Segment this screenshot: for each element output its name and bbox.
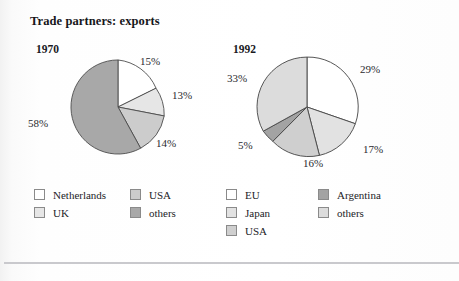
legend-swatch-others: [318, 207, 329, 218]
legend-label-usa: USA: [149, 189, 171, 201]
pie-value-label-others: 58%: [28, 117, 48, 129]
trade-partners-figure: Trade partners: exports 1970 15% 13%: [0, 0, 459, 281]
legend-item-others: others: [318, 204, 381, 221]
chart-title-1970: 1970: [36, 43, 59, 55]
pie-value-label-uk: 13%: [172, 89, 192, 101]
chart-panel-1992: 1992 29% 17% 16% 5% 33%: [215, 0, 459, 281]
legend-column-left: EU Japan USA: [226, 186, 270, 240]
legend-swatch-netherlands: [34, 189, 45, 200]
pie-value-label-usa: 14%: [156, 137, 176, 149]
legend-item-usa: USA: [226, 222, 270, 239]
legend-column-left: Netherlands UK: [34, 186, 106, 222]
legend-swatch-others: [130, 207, 141, 218]
legend-label-argentina: Argentina: [337, 189, 381, 201]
legend-item-usa: USA: [130, 186, 176, 203]
legend-label-others: others: [149, 207, 176, 219]
legend-item-eu: EU: [226, 186, 270, 203]
legend-swatch-argentina: [318, 189, 329, 200]
pie-value-label-eu: 29%: [360, 63, 380, 75]
chart-panel-1970: 1970 15% 13% 14% 58%: [0, 0, 220, 281]
pie-value-label-others: 33%: [227, 72, 247, 84]
legend-item-netherlands: Netherlands: [34, 186, 106, 203]
figure-page: Trade partners: exports 1970 15% 13%: [0, 0, 459, 281]
pie-svg-1992: [255, 55, 359, 159]
pie-chart-1970: [69, 58, 167, 156]
legend-swatch-usa: [130, 189, 141, 200]
legend-swatch-japan: [226, 207, 237, 218]
pie-value-label-japan: 17%: [363, 143, 383, 155]
chart-title-1992: 1992: [233, 43, 256, 55]
pie-value-label-usa: 16%: [303, 157, 323, 169]
legend-label-netherlands: Netherlands: [53, 189, 106, 201]
horizontal-rule: [4, 262, 459, 264]
legend-swatch-usa: [226, 225, 237, 236]
legend-item-uk: UK: [34, 204, 106, 221]
legend-item-argentina: Argentina: [318, 186, 381, 203]
legend-swatch-uk: [34, 207, 45, 218]
pie-value-label-argentina: 5%: [238, 139, 253, 151]
legend-swatch-eu: [226, 189, 237, 200]
pie-svg-1970: [69, 58, 167, 156]
legend-item-japan: Japan: [226, 204, 270, 221]
legend-column-right: USA others: [130, 186, 176, 222]
pie-value-label-netherlands: 15%: [140, 55, 160, 67]
pie-chart-1992: [255, 55, 359, 159]
legend-label-others: others: [337, 207, 364, 219]
legend-label-uk: UK: [53, 207, 69, 219]
legend-label-japan: Japan: [245, 207, 270, 219]
legend-column-right: Argentina others: [318, 186, 381, 222]
legend-item-others: others: [130, 204, 176, 221]
legend-label-usa: USA: [245, 225, 267, 237]
legend-label-eu: EU: [245, 189, 260, 201]
